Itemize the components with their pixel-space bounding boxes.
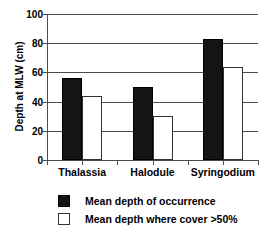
plot-area: 020406080100 bbox=[47, 14, 258, 161]
y-tick-label: 60 bbox=[32, 67, 43, 78]
bar bbox=[82, 96, 102, 160]
y-axis-line bbox=[47, 14, 48, 161]
y-tick-mark bbox=[43, 14, 47, 15]
legend-swatch bbox=[58, 213, 70, 225]
legend-item: Mean depth of occurrence bbox=[58, 193, 268, 209]
bar bbox=[203, 39, 223, 160]
bar bbox=[153, 116, 173, 160]
x-tick-mark bbox=[82, 160, 83, 165]
y-tick-label: 100 bbox=[26, 9, 43, 20]
x-tick-mark bbox=[47, 160, 48, 165]
y-tick-mark bbox=[43, 72, 47, 73]
x-tick-mark bbox=[258, 160, 259, 165]
y-tick-mark bbox=[43, 43, 47, 44]
x-tick-mark bbox=[188, 160, 189, 165]
bar-chart-figure: Depth at MLW (cm) 020406080100 Thalassia… bbox=[0, 0, 273, 244]
bar bbox=[223, 67, 243, 160]
category-label: Thalassia bbox=[58, 166, 106, 178]
legend-label: Mean depth of occurrence bbox=[85, 195, 216, 207]
y-tick-label: 0 bbox=[37, 155, 43, 166]
bar bbox=[62, 78, 82, 160]
legend-swatch bbox=[58, 195, 70, 207]
category-label: Halodule bbox=[130, 166, 174, 178]
legend-item: Mean depth where cover >50% bbox=[58, 211, 268, 227]
y-tick-mark bbox=[43, 102, 47, 103]
y-tick-label: 80 bbox=[32, 38, 43, 49]
x-tick-mark bbox=[153, 160, 154, 165]
x-tick-mark bbox=[223, 160, 224, 165]
y-tick-label: 20 bbox=[32, 125, 43, 136]
gridline bbox=[47, 14, 258, 15]
x-tick-mark bbox=[117, 160, 118, 165]
chart-legend: Mean depth of occurrenceMean depth where… bbox=[58, 193, 268, 229]
gridline bbox=[47, 43, 258, 44]
bar bbox=[133, 87, 153, 160]
y-axis-title: Depth at MLW (cm) bbox=[14, 12, 25, 162]
legend-label: Mean depth where cover >50% bbox=[85, 213, 238, 225]
y-tick-mark bbox=[43, 131, 47, 132]
category-label: Syringodium bbox=[191, 166, 255, 178]
y-tick-label: 40 bbox=[32, 96, 43, 107]
